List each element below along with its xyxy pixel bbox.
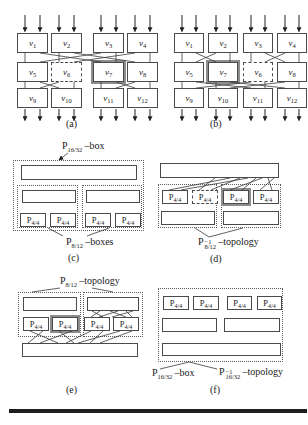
stage-rect-f-right <box>224 318 280 332</box>
panel-b-input-arrows <box>182 15 299 32</box>
stage-rect-c-top <box>21 165 137 180</box>
caption-b: (b) <box>210 118 222 130</box>
stage-rect-d-left <box>161 211 215 225</box>
stage-rect-d-right <box>223 211 279 225</box>
node-v4-a: v4 <box>127 33 158 53</box>
node-v10-a: v10 <box>51 88 82 108</box>
stage-rect-f-bottom <box>162 343 281 356</box>
p44-box-d1: P4/4 <box>162 190 188 204</box>
node-v12-a: v12 <box>127 88 158 108</box>
label-p8-12-boxes-c: P8/12–boxes <box>66 236 113 252</box>
node-v9-a: v9 <box>17 88 48 108</box>
node-v2-b: v2 <box>208 33 238 53</box>
node-v3-a: v3 <box>93 33 124 53</box>
bottom-rule <box>9 409 307 413</box>
node-v7-b: v7 <box>208 62 238 82</box>
stage-rect-e-left <box>23 297 77 311</box>
panel-b-output-arrows <box>182 109 299 121</box>
stage-rect-d-top <box>160 163 279 178</box>
stage-rect-c-left <box>22 190 76 203</box>
node-v7-a: v7 <box>93 62 124 82</box>
label-p8-12-inv-topology-d: P−18/12–topology <box>198 236 259 250</box>
p44-box-f1: P4/4 <box>163 296 189 310</box>
p44-box-e4: P4/4 <box>113 317 139 331</box>
caption-a: (a) <box>66 118 77 130</box>
node-v8-a: v8 <box>127 62 158 82</box>
caption-e: (e) <box>66 384 77 396</box>
caption-f: (f) <box>210 384 220 396</box>
node-v2-a: v2 <box>51 33 82 53</box>
p44-box-c2: P4/4 <box>50 213 76 227</box>
panel-a-input-arrows <box>25 15 150 32</box>
node-v5-b: v5 <box>174 62 204 82</box>
label-p16-32-box-f: P16/32–box <box>152 367 194 383</box>
node-v11-a: v11 <box>93 88 124 108</box>
p44-box-c4: P4/4 <box>115 213 141 227</box>
node-v12-b: v12 <box>277 88 307 108</box>
node-v8-b: v8 <box>277 62 307 82</box>
p44-box-c3: P4/4 <box>85 213 111 227</box>
node-v3-b: v3 <box>243 33 273 53</box>
node-v1-b: v1 <box>174 33 204 53</box>
p44-box-e2: P4/4 <box>52 317 78 331</box>
caption-d: (d) <box>210 253 222 265</box>
p44-box-e1: P4/4 <box>23 317 49 331</box>
stage-rect-f-left <box>162 318 217 332</box>
node-v4-b: v4 <box>277 33 307 53</box>
panel-a-output-arrows <box>25 109 150 121</box>
label-p16-32-box-c: P16/32–box <box>62 140 104 156</box>
figure-network-topologies: v1 v2 v3 v4 v5 v6 v7 v8 v9 v10 v11 v12 (… <box>0 0 308 425</box>
stage-rect-c-right <box>86 190 140 203</box>
panel-a-wires-r1r2 <box>25 53 150 62</box>
p44-box-d4: P4/4 <box>253 190 279 204</box>
node-v9-b: v9 <box>174 88 204 108</box>
p44-box-c1: P4/4 <box>20 213 46 227</box>
p44-box-e3: P4/4 <box>84 317 110 331</box>
caption-c: (c) <box>68 252 79 264</box>
p44-box-f2: P4/4 <box>193 296 219 310</box>
node-v11-b: v11 <box>243 88 273 108</box>
p44-box-d2: P4/4 <box>192 190 218 204</box>
node-v10-b: v10 <box>208 88 238 108</box>
label-p16-32-inv-topology-f: P−116/32–topology <box>219 366 283 380</box>
p44-box-d3: P4/4 <box>223 190 249 204</box>
p44-box-f3: P4/4 <box>227 296 252 310</box>
node-v1-a: v1 <box>17 33 48 53</box>
node-v6-b: v6 <box>243 62 273 82</box>
panel-b-wires-r1r2 <box>182 53 299 62</box>
node-v5-a: v5 <box>17 62 48 82</box>
p44-box-f4: P4/4 <box>257 296 282 310</box>
node-v6-a: v6 <box>51 62 82 82</box>
stage-rect-e-right <box>87 297 139 311</box>
stage-rect-e-bottom <box>22 343 138 357</box>
label-p8-12-topology-e: P8/12–topology <box>60 275 120 291</box>
